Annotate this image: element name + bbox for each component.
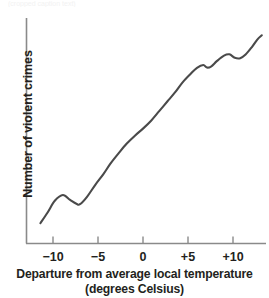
x-axis-title-line2: (degrees Celsius) (0, 282, 269, 297)
x-axis-title-line1: Departure from average local temperature (0, 267, 269, 282)
y-axis-title: Number of violent crimes (21, 34, 35, 214)
data-series-line (40, 35, 261, 223)
x-axis-tick-label: +5 (181, 250, 195, 264)
x-axis-tick-label: +10 (222, 250, 243, 264)
axis-lines (26, 18, 266, 244)
x-axis-tick-label: −10 (42, 250, 63, 264)
x-axis-tick-labels: −10−50+5+10 (0, 250, 269, 264)
x-axis-tick-label: −5 (91, 250, 105, 264)
figure-container: (cropped caption text) Number of violent… (0, 0, 269, 298)
x-axis-tick-label: 0 (140, 250, 147, 264)
x-axis-ticks (53, 237, 233, 244)
x-axis-title: Departure from average local temperature… (0, 267, 269, 296)
